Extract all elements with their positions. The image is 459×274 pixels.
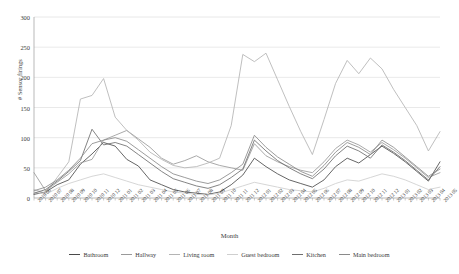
y-tick-label: 150: [4, 104, 30, 111]
plot-area: [34, 17, 440, 198]
series-line: [34, 53, 440, 193]
line-chart: # Sensor firings 050100150200250300 2010…: [0, 0, 459, 274]
legend-item[interactable]: Guest bedroom: [227, 251, 279, 258]
y-tick-label: 50: [4, 164, 30, 171]
legend-item[interactable]: Main bedroom: [339, 251, 390, 258]
legend-swatch-icon: [121, 254, 132, 255]
legend-label: Main bedroom: [353, 251, 390, 258]
legend-swatch-icon: [69, 254, 80, 255]
x-axis-title: Month: [0, 232, 459, 239]
plot-svg: [34, 17, 440, 198]
legend-label: Living room: [183, 251, 214, 258]
y-tick-label: 0: [4, 195, 30, 202]
legend-item[interactable]: Living room: [169, 251, 214, 258]
y-tick-label: 250: [4, 44, 30, 51]
series-line: [34, 135, 440, 191]
y-tick-label: 100: [4, 134, 30, 141]
legend-swatch-icon: [169, 254, 180, 255]
legend-label: Kitchen: [306, 251, 326, 258]
series-line: [34, 129, 440, 193]
legend-swatch-icon: [339, 254, 350, 255]
y-tick-label: 300: [4, 14, 30, 21]
legend-swatch-icon: [227, 254, 238, 255]
y-tick-label: 200: [4, 74, 30, 81]
legend-item[interactable]: Hallway: [121, 251, 156, 258]
legend-label: Hallway: [135, 251, 156, 258]
legend-label: Bathroom: [83, 251, 108, 258]
legend-label: Guest bedroom: [241, 251, 279, 258]
legend-item[interactable]: Bathroom: [69, 251, 108, 258]
legend-swatch-icon: [292, 254, 303, 255]
legend-item[interactable]: Kitchen: [292, 251, 326, 258]
chart-legend: BathroomHallwayLiving roomGuest bedroomK…: [0, 251, 459, 258]
series-line: [34, 130, 440, 190]
